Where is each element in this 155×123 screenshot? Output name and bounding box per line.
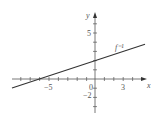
inverse-function-line — [12, 44, 145, 88]
x-axis-label: x — [146, 81, 151, 90]
tick-label-y-5: 5 — [87, 29, 91, 38]
curve-label: f⁻¹ — [115, 43, 124, 52]
tick-label-y-neg2: −2 — [83, 91, 92, 100]
tick-label-x-3: 3 — [121, 83, 125, 92]
y-axis-label: y — [85, 11, 90, 20]
y-axis-arrow-icon — [93, 12, 97, 18]
inverse-function-graph: y x f⁻¹ −5 0 3 5 −2 — [0, 0, 155, 123]
tick-label-x-neg5: −5 — [44, 83, 53, 92]
